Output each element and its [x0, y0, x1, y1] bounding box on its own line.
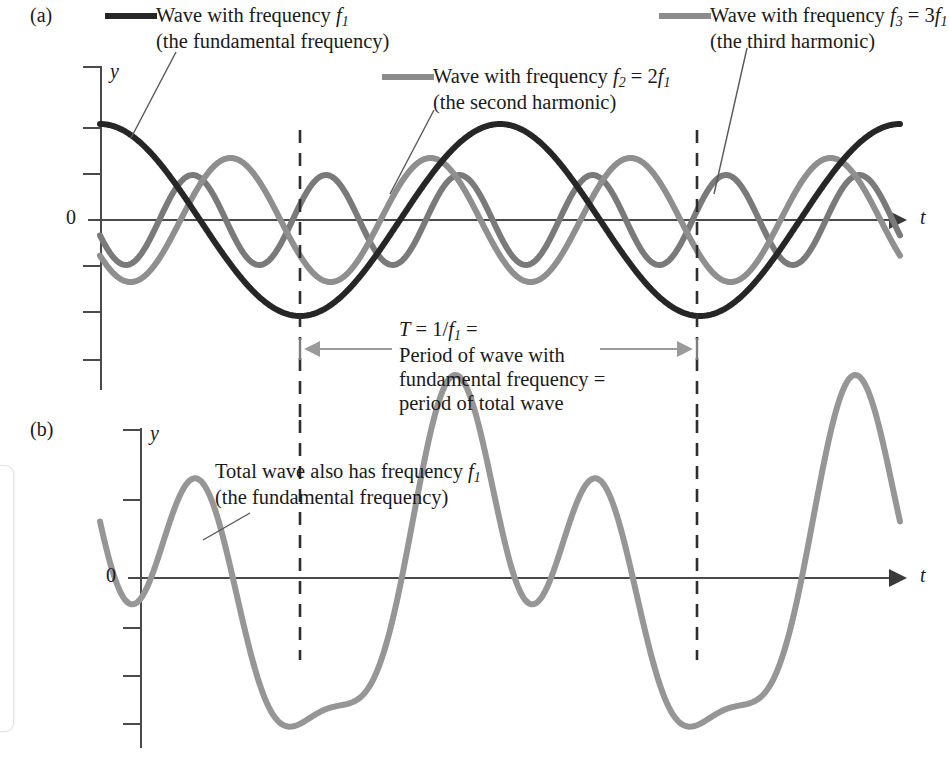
panel-a-y-axis-label: y	[110, 60, 119, 82]
period-note-line3: fundamental frequency =	[399, 368, 605, 392]
panel-a-zero-label: 0	[66, 206, 76, 228]
legend-second-line2: (the second harmonic)	[433, 91, 670, 114]
panel-a-t-axis-label: t	[920, 206, 926, 228]
legend-second-sub: 2	[619, 75, 626, 90]
panel-b-tag: (b)	[30, 418, 53, 440]
panel-b-zero-label: 0	[106, 564, 116, 586]
legend-third-line2: (the third harmonic)	[710, 30, 947, 53]
leader-third-harmonic	[714, 48, 747, 194]
period-note-T: T	[399, 318, 410, 340]
panel-b-curves	[100, 375, 900, 727]
leader-lines-panel-b	[203, 513, 250, 540]
legend-third-sub: 3	[896, 14, 903, 29]
legend-fundamental-line1: Wave with frequency	[156, 4, 336, 26]
total-note-sub: 1	[474, 470, 481, 485]
legend-second-line1: Wave with frequency	[433, 65, 613, 87]
period-note-line2: Period of wave with	[399, 344, 605, 368]
legend-third-line1: Wave with frequency	[710, 4, 890, 26]
legend-second-harmonic: Wave with frequency f2 = 2f1 (the second…	[433, 65, 670, 113]
panel-b-t-axis-label: t	[920, 564, 926, 586]
total-note-line2: (the fundamental frequency)	[215, 486, 481, 510]
leader-fundamental	[131, 52, 176, 138]
legend-third-harmonic: Wave with frequency f3 = 3f1 (the third …	[710, 4, 947, 52]
period-note: T = 1/f1 = Period of wave with fundament…	[399, 318, 605, 416]
leader-total-wave	[203, 513, 250, 540]
legend-second-eq: = 2	[626, 65, 658, 87]
legend-fundamental-line2: (the fundamental frequency)	[156, 30, 389, 53]
period-note-line4: period of total wave	[399, 392, 605, 416]
curve-total-wave	[100, 375, 900, 727]
panel-a-tag: (a)	[30, 4, 52, 26]
legend-second-sub2: 1	[663, 75, 670, 90]
total-wave-note: Total wave also has frequency f1 (the fu…	[215, 460, 481, 510]
legend-fundamental: Wave with frequency f1 (the fundamental …	[156, 4, 389, 52]
figure-canvas: (a) Wave with frequency f1 (the fundamen…	[0, 0, 949, 757]
legend-third-sub2: 1	[940, 14, 947, 29]
legend-fundamental-sub: 1	[342, 14, 349, 29]
legend-third-eq: = 3	[903, 4, 935, 26]
total-note-line1: Total wave also has frequency	[215, 460, 468, 482]
panel-b-y-axis-label: y	[150, 422, 159, 444]
period-note-eq: = 1/	[410, 318, 448, 340]
period-note-post: =	[461, 318, 478, 340]
period-note-sub: 1	[454, 328, 461, 343]
